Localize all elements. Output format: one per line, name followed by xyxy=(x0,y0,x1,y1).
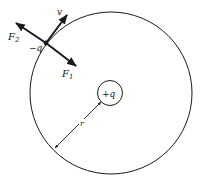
force-f1-arrow xyxy=(46,43,76,66)
central-charge-label: +q xyxy=(102,89,116,99)
force-f2-arrow xyxy=(16,23,46,43)
force-f2-label: F 2 xyxy=(7,31,20,44)
force-f1-label: F 1 xyxy=(61,68,73,81)
orbiting-charge-dot xyxy=(44,41,49,46)
orbiting-charge-label: −q xyxy=(29,43,43,53)
velocity-arrow xyxy=(46,15,67,43)
radius-arrow xyxy=(55,102,101,148)
svg-text:2: 2 xyxy=(14,36,20,44)
svg-text:1: 1 xyxy=(69,73,73,81)
diagram-canvas: +q r v F 2 F 1 −q xyxy=(0,0,201,182)
velocity-label: v xyxy=(57,7,62,17)
